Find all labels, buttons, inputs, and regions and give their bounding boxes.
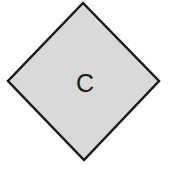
diamond-label: C [76, 69, 94, 97]
diagram-canvas: C [0, 0, 191, 173]
